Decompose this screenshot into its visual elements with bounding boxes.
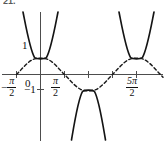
fraction-numerator: π: [52, 76, 59, 86]
x-label-five-half-pi: 5π 2: [126, 76, 138, 98]
x-label-half-pi: π 2: [51, 76, 60, 98]
fraction-denominator: 2: [8, 88, 15, 98]
fraction-denominator: 2: [52, 88, 59, 98]
y-label-one: 1: [22, 40, 28, 51]
graph-canvas: [0, 0, 164, 145]
secant-branch-lower: [72, 90, 106, 140]
fraction-numerator: π: [8, 76, 15, 86]
y-label-neg-one: −1: [24, 84, 36, 95]
secant-branch-right: [119, 12, 154, 59]
fraction-five-half-pi: 5π 2: [126, 76, 138, 98]
fraction-denominator: 2: [129, 88, 136, 98]
fraction-neg-half-pi: π 2: [7, 76, 16, 98]
x-label-neg-half-pi: − π 2: [1, 76, 16, 98]
fraction-half-pi: π 2: [51, 76, 60, 98]
figure-root: 21. − π 2 0: [0, 0, 164, 145]
fraction-numerator: 5π: [126, 76, 138, 86]
